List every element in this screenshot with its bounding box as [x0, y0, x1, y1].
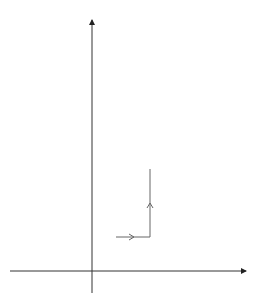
translation-arrows: [116, 169, 153, 240]
graph-chart: [0, 0, 262, 307]
